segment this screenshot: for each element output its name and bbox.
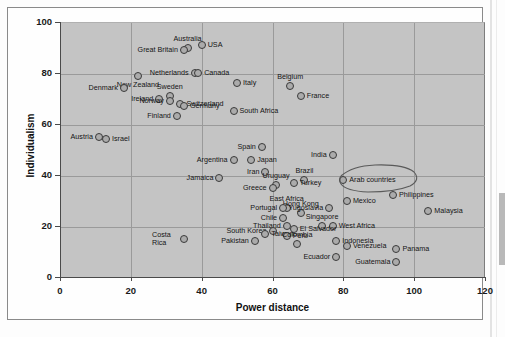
data-point-label: Sweden — [157, 83, 183, 91]
y-tick — [55, 226, 60, 227]
y-tick — [55, 175, 60, 176]
x-tick-label: 0 — [40, 285, 80, 296]
data-point-label: Italy — [243, 79, 256, 87]
data-point-label: Arab countries — [349, 176, 395, 184]
data-point-label: Japan — [257, 156, 277, 164]
data-point-label: Turkey — [300, 179, 322, 187]
data-point-label: Norway — [139, 97, 163, 105]
data-point-label: Belgium — [277, 73, 303, 81]
x-tick — [343, 277, 344, 281]
data-point-label: Panama — [402, 245, 429, 253]
data-point-label: Philippines — [399, 191, 434, 199]
gridline-vertical — [414, 23, 415, 278]
data-point-label: Singapore — [306, 213, 339, 221]
data-point-label: Colombia — [282, 231, 312, 239]
data-point-label: Argentina — [197, 156, 228, 164]
data-point — [230, 107, 238, 115]
x-tick — [202, 277, 203, 281]
data-point-label: Austria — [71, 133, 93, 141]
x-tick — [60, 277, 61, 281]
x-tick-label: 120 — [465, 285, 505, 296]
data-point — [258, 143, 266, 151]
y-tick-label: 100 — [14, 16, 52, 27]
y-tick-label: 0 — [14, 271, 52, 282]
data-point — [286, 82, 294, 90]
data-point-label: France — [307, 92, 329, 100]
data-point-label: Yugoslavia — [288, 204, 323, 212]
gridline-vertical — [273, 23, 274, 278]
data-point-label: Greece — [243, 184, 267, 192]
data-point — [230, 156, 238, 164]
data-point-label: Guatemala — [355, 258, 390, 266]
x-tick — [485, 277, 486, 281]
x-tick — [273, 277, 274, 281]
data-point-label: USA — [208, 41, 223, 49]
data-point-label: Venezuela — [353, 242, 387, 250]
data-point — [180, 235, 188, 243]
data-point — [424, 207, 432, 215]
plot-area — [60, 22, 485, 277]
data-point-label: Australia — [174, 35, 202, 43]
data-point-label: South Africa — [240, 107, 279, 115]
data-point — [215, 174, 223, 182]
data-point-label: Germany — [190, 102, 220, 110]
data-point — [329, 151, 337, 159]
data-point-label: Iran — [247, 168, 259, 176]
data-point-label: Israel — [112, 135, 130, 143]
y-tick — [55, 22, 60, 23]
data-point-label: Spain — [237, 143, 255, 151]
x-tick-label: 40 — [182, 285, 222, 296]
gridline-vertical — [131, 23, 132, 278]
y-tick — [55, 124, 60, 125]
data-point — [180, 46, 188, 54]
data-point-label: Malaysia — [434, 207, 462, 215]
data-point — [269, 184, 277, 192]
x-tick — [131, 277, 132, 281]
y-tick — [55, 277, 60, 278]
x-axis-label: Power distance — [60, 302, 485, 313]
data-point — [247, 156, 255, 164]
y-axis-line — [60, 22, 61, 278]
x-tick-label: 20 — [111, 285, 151, 296]
y-axis-label: Individualism — [25, 66, 36, 226]
x-tick-label: 60 — [253, 285, 293, 296]
data-point-label: Brazil — [295, 167, 313, 175]
data-point-label: Portugal — [250, 204, 277, 212]
data-point-label: Great Britain — [138, 46, 178, 54]
data-point-label: Jamaica — [187, 174, 214, 182]
data-point-label: Denmark — [89, 84, 118, 92]
x-tick — [414, 277, 415, 281]
y-tick — [55, 73, 60, 74]
data-point-label: Finland — [147, 112, 171, 120]
data-point — [332, 253, 340, 261]
data-point-label: Mexico — [353, 197, 376, 205]
data-point-label: West Africa — [339, 222, 375, 230]
scanned-page: 020406080100120020406080100 AustraliaUSA… — [0, 0, 505, 337]
data-point-label: Uruguay — [262, 172, 289, 180]
data-point — [166, 97, 174, 105]
data-point — [343, 197, 351, 205]
data-point — [134, 72, 142, 80]
data-point — [297, 92, 305, 100]
data-point — [290, 179, 298, 187]
data-point-label: Pakistan — [221, 237, 249, 245]
gridline-vertical — [202, 23, 203, 278]
gridline-horizontal — [60, 74, 485, 75]
data-point-label: India — [311, 151, 327, 159]
x-tick-label: 80 — [323, 285, 363, 296]
data-point-label: Ecuador — [303, 253, 330, 261]
gridline-horizontal — [60, 125, 485, 126]
data-point-label: Canada — [204, 69, 229, 77]
data-point-label: Netherlands — [150, 69, 189, 77]
scan-edge-artifact — [499, 193, 505, 265]
data-point — [198, 41, 206, 49]
x-tick-label: 100 — [394, 285, 434, 296]
data-point-label: Costa Rica — [152, 231, 178, 247]
